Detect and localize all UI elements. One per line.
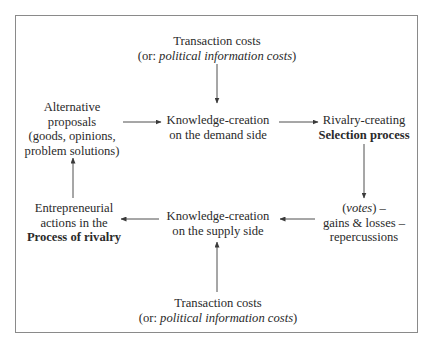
label: Knowledge-creation: [167, 209, 270, 224]
label: (goods, opinions,: [25, 129, 120, 144]
node-transaction-costs-top: Transaction costs (or: political informa…: [138, 34, 296, 63]
label: Knowledge-creation: [167, 113, 270, 128]
label: actions in the: [27, 216, 121, 231]
node-knowledge-demand: Knowledge-creation on the demand side: [167, 113, 270, 142]
label: (or: political information costs): [139, 311, 297, 326]
label: proposals: [25, 115, 120, 130]
node-rivalry-selection: Rivalry-creating Selection process: [318, 113, 409, 142]
label: Rivalry-creating: [318, 113, 409, 128]
label: Transaction costs: [139, 296, 297, 311]
label: Selection process: [318, 128, 409, 143]
label: gains & losses –: [323, 216, 405, 231]
node-votes-gains: (votes) – gains & losses – repercussions: [323, 201, 405, 245]
label: on the demand side: [167, 128, 270, 143]
node-transaction-costs-bottom: Transaction costs (or: political informa…: [139, 296, 297, 325]
label: (votes) –: [323, 201, 405, 216]
node-alternative-proposals: Alternative proposals (goods, opinions, …: [25, 100, 120, 158]
node-knowledge-supply: Knowledge-creation on the supply side: [167, 209, 270, 238]
node-entrepreneurial-actions: Entrepreneurial actions in the Process o…: [27, 201, 121, 245]
label: Process of rivalry: [27, 230, 121, 245]
label: Entrepreneurial: [27, 201, 121, 216]
label: on the supply side: [167, 224, 270, 239]
label: Alternative: [25, 100, 120, 115]
label: (or: political information costs): [138, 49, 296, 64]
label: problem solutions): [25, 144, 120, 159]
label: repercussions: [323, 230, 405, 245]
label: Transaction costs: [138, 34, 296, 49]
